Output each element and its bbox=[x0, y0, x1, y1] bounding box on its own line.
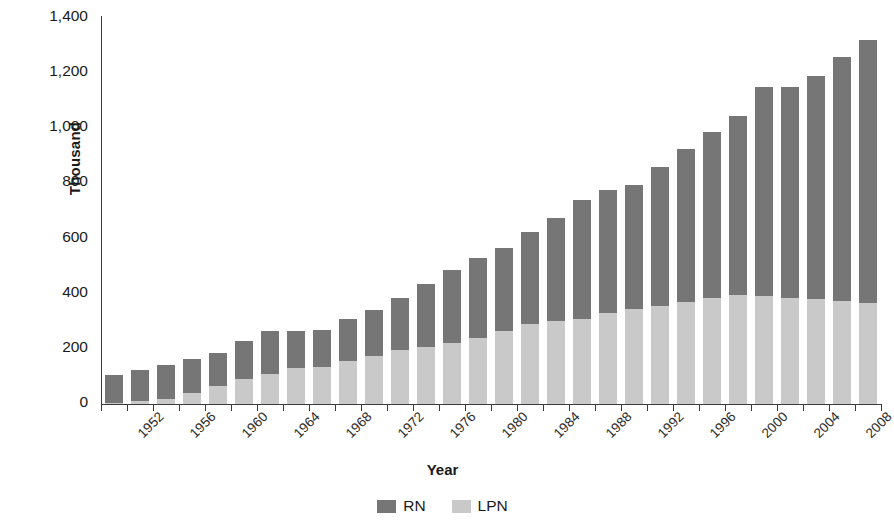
bar-segment-rn bbox=[599, 190, 617, 313]
bar-segment-rn bbox=[443, 270, 461, 343]
legend-swatch-rn bbox=[377, 500, 396, 513]
x-axis-tick bbox=[543, 404, 544, 411]
bar bbox=[495, 248, 513, 404]
bar-segment-rn bbox=[391, 298, 409, 350]
bar-segment-rn bbox=[105, 375, 123, 403]
x-axis-label: 1968 bbox=[342, 409, 374, 441]
bar-segment-lpn bbox=[495, 331, 513, 404]
bar-segment-rn bbox=[625, 185, 643, 309]
bar bbox=[313, 330, 331, 404]
bar bbox=[105, 375, 123, 404]
chart-legend: RNLPN bbox=[0, 497, 885, 515]
x-axis-label: 1988 bbox=[602, 409, 634, 441]
x-axis-label: 1960 bbox=[238, 409, 270, 441]
legend-entry: RN bbox=[377, 497, 425, 515]
x-axis-tick bbox=[647, 404, 648, 411]
bar-segment-rn bbox=[859, 40, 877, 303]
bar-segment-lpn bbox=[833, 301, 851, 404]
bar-segment-lpn bbox=[781, 298, 799, 404]
x-axis-tick bbox=[439, 404, 440, 411]
bar-segment-lpn bbox=[807, 299, 825, 404]
bar-segment-lpn bbox=[703, 298, 721, 404]
bar-segment-lpn bbox=[469, 338, 487, 404]
x-axis-title: Year bbox=[0, 461, 885, 478]
bar-segment-lpn bbox=[209, 386, 227, 404]
bar-segment-rn bbox=[131, 370, 149, 402]
x-axis-label: 1980 bbox=[498, 409, 530, 441]
y-tick-label: 1,400 bbox=[49, 7, 88, 25]
bar-segment-rn bbox=[547, 218, 565, 321]
bar bbox=[235, 341, 253, 404]
legend-label: RN bbox=[403, 497, 425, 515]
bar-segment-rn bbox=[235, 341, 253, 380]
bar bbox=[443, 270, 461, 404]
bar-segment-rn bbox=[365, 310, 383, 355]
bar bbox=[131, 370, 149, 404]
bar bbox=[859, 40, 877, 404]
x-axis-tick bbox=[283, 404, 284, 411]
bar-segment-lpn bbox=[235, 379, 253, 404]
x-axis-label: 2004 bbox=[810, 409, 842, 441]
bar-segment-lpn bbox=[183, 393, 201, 404]
bar-segment-rn bbox=[339, 319, 357, 362]
y-axis-title: Thousand bbox=[66, 79, 83, 239]
bar bbox=[391, 298, 409, 404]
bar-segment-lpn bbox=[573, 319, 591, 404]
x-axis-label: 1956 bbox=[186, 409, 218, 441]
bar-segment-lpn bbox=[859, 303, 877, 404]
bar-segment-lpn bbox=[521, 324, 539, 404]
bar bbox=[573, 200, 591, 404]
bar-segment-rn bbox=[807, 76, 825, 299]
bar-segment-rn bbox=[755, 87, 773, 297]
bar bbox=[469, 258, 487, 404]
y-tick-label: 1,200 bbox=[49, 62, 88, 80]
x-axis-label: 1976 bbox=[446, 409, 478, 441]
bar-segment-lpn bbox=[131, 401, 149, 404]
y-tick-label: 600 bbox=[62, 228, 88, 246]
bar bbox=[807, 76, 825, 404]
bar-segment-rn bbox=[469, 258, 487, 338]
bar-segment-rn bbox=[521, 232, 539, 324]
bar-segment-lpn bbox=[599, 313, 617, 404]
x-axis-tick bbox=[101, 404, 102, 411]
bar bbox=[755, 87, 773, 404]
bar-segment-rn bbox=[781, 87, 799, 298]
bar-segment-rn bbox=[313, 330, 331, 367]
bar-segment-rn bbox=[573, 200, 591, 319]
bar-segment-lpn bbox=[443, 343, 461, 404]
bar-segment-lpn bbox=[287, 368, 305, 404]
bar-segment-lpn bbox=[417, 347, 435, 404]
bar-segment-rn bbox=[495, 248, 513, 331]
bar bbox=[521, 232, 539, 404]
y-tick-label: 400 bbox=[62, 283, 88, 301]
x-axis-label: 2008 bbox=[862, 409, 894, 441]
x-axis-tick bbox=[595, 404, 596, 411]
y-tick-label: 200 bbox=[62, 338, 88, 356]
legend-entry: LPN bbox=[452, 497, 508, 515]
bar bbox=[599, 190, 617, 404]
x-axis-tick bbox=[179, 404, 180, 411]
bar-segment-lpn bbox=[157, 399, 175, 405]
x-axis-tick bbox=[751, 404, 752, 411]
bar-segment-rn bbox=[833, 57, 851, 301]
bar-segment-rn bbox=[287, 331, 305, 368]
bar-segment-lpn bbox=[391, 350, 409, 404]
bar-segment-lpn bbox=[625, 309, 643, 404]
bar bbox=[365, 310, 383, 404]
bar-segment-rn bbox=[703, 132, 721, 297]
bar bbox=[417, 284, 435, 404]
x-axis-label: 1952 bbox=[134, 409, 166, 441]
y-tick-label: 800 bbox=[62, 172, 88, 190]
bar-segment-rn bbox=[677, 149, 695, 302]
bar-segment-lpn bbox=[755, 296, 773, 404]
legend-swatch-lpn bbox=[452, 500, 471, 513]
bar-segment-lpn bbox=[105, 403, 123, 404]
bar-segment-lpn bbox=[313, 367, 331, 404]
bar bbox=[287, 331, 305, 404]
bar-segment-rn bbox=[261, 331, 279, 374]
bar bbox=[677, 149, 695, 404]
bar-segment-rn bbox=[209, 353, 227, 386]
bar bbox=[729, 116, 747, 404]
x-axis-tick bbox=[127, 404, 128, 411]
